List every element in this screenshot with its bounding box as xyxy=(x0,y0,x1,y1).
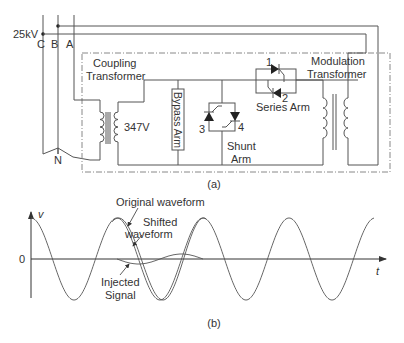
neutral-label: N xyxy=(54,154,62,166)
phase-a-label: A xyxy=(66,38,74,50)
neutral-connection xyxy=(43,148,90,160)
x-axis-label: t xyxy=(376,265,380,277)
original-waveform-arrow xyxy=(128,208,138,226)
modulation-transformer-label-2: Transformer xyxy=(307,68,367,80)
caption-a: (a) xyxy=(207,178,220,190)
shifted-waveform-label-1: Shifted xyxy=(143,216,177,228)
injected-signal-label-1: Injected xyxy=(101,276,140,288)
waveform-chart: v t 0 Original waveform Shifted waveform… xyxy=(19,196,386,329)
thyristor-2-gate xyxy=(268,80,273,93)
thyristor-4-label: 4 xyxy=(238,121,244,133)
thyristor-2-icon xyxy=(273,88,281,98)
phase-c-label: C xyxy=(37,38,45,50)
thyristor-3-icon xyxy=(204,112,214,121)
coupling-transformer-label-1: Coupling xyxy=(93,57,136,69)
phase-b-label: B xyxy=(51,38,58,50)
modulation-transformer-label-1: Modulation xyxy=(311,55,365,67)
coupling-primary-coil xyxy=(100,112,104,142)
bypass-arm-label: Bypass Arm xyxy=(172,92,184,148)
shifted-waveform-label-2: waveform xyxy=(124,228,173,240)
series-arm-label: Series Arm xyxy=(256,101,310,113)
supply-voltage-label: 25kV xyxy=(13,28,39,40)
injected-signal-label-2: Signal xyxy=(105,289,136,301)
caption-b: (b) xyxy=(207,317,220,329)
primary-return xyxy=(90,142,100,160)
injected-signal-arrow xyxy=(120,264,129,275)
thyristor-3-label: 3 xyxy=(199,123,205,135)
coupling-transformer-label-2: Transformer xyxy=(86,70,146,82)
coupling-secondary-coil xyxy=(114,112,118,142)
thyristor-3-gate xyxy=(212,106,222,112)
secondary-bottom-bus xyxy=(118,142,323,165)
thyristor-4-gate xyxy=(222,121,232,127)
figure-canvas: 25kV C B A N Coupling Transformer 347V B… xyxy=(0,0,404,343)
shunt-arm-label-1: Shunt xyxy=(227,140,256,152)
series-arm-box xyxy=(256,69,296,93)
primary-feed xyxy=(74,100,100,112)
thyristor-1-icon xyxy=(271,64,279,74)
thyristor-1-label: 1 xyxy=(266,56,272,68)
secondary-voltage-label: 347V xyxy=(124,121,150,133)
shunt-arm-label-2: Arm xyxy=(231,153,251,165)
secondary-top-bus xyxy=(118,80,358,112)
original-waveform-label: Original waveform xyxy=(116,196,205,208)
thyristor-4-icon xyxy=(230,112,240,121)
zero-label: 0 xyxy=(19,253,25,265)
circuit-diagram: 25kV C B A N Coupling Transformer 347V B… xyxy=(13,15,390,190)
modulation-primary-coil xyxy=(323,80,327,165)
y-axis-label: v xyxy=(38,208,45,220)
inner-feed-line xyxy=(43,34,366,53)
outer-feed-line xyxy=(58,26,378,165)
